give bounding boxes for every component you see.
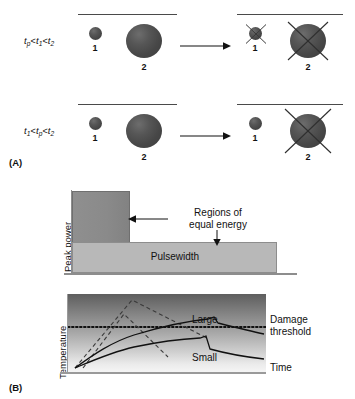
sphere-small-row2-after: [249, 117, 262, 130]
bar-peak-power-short-pulse: [72, 191, 130, 243]
condition-label-row-1: tp<t1<t2: [24, 35, 54, 46]
curve-large: [75, 317, 264, 368]
curve-label-large: Large: [192, 314, 218, 325]
sphere-number-row1-after-1: 1: [245, 43, 265, 53]
temp-chart-curves: [68, 294, 266, 372]
sphere-number-row1-before-1: 1: [85, 43, 105, 53]
row-2-left-rule: [78, 104, 177, 105]
sphere-number-row1-before-2: 2: [134, 62, 154, 72]
panel-a: tp<t1<t2 1 2 1 2 t1<tp<t2: [0, 0, 355, 175]
sphere-number-row2-before-1: 1: [85, 133, 105, 143]
sphere-large-row2-before: [126, 114, 162, 148]
equal-energy-annotation: Regions of equal energy: [158, 207, 278, 231]
bar-chart-baseline: [64, 273, 297, 275]
row-2-right-rule: [237, 104, 343, 105]
sphere-number-row2-after-1: 1: [245, 133, 265, 143]
sphere-large-row1-before: [126, 24, 162, 58]
down-arrow-icon-annotation: [211, 230, 223, 246]
temp-chart-x-axis: [60, 372, 266, 374]
bar-pulsewidth-label: Pulsewidth: [100, 252, 250, 262]
row-1-right-rule: [237, 14, 343, 15]
bar-chart: Peak power Pulsewidth Regions of equal e…: [0, 178, 355, 282]
curve-label-small: Small: [192, 352, 217, 363]
condition-label-row-2: t1<tp<t2: [24, 125, 54, 136]
temperature-chart: Temperature Large Small Damage threshold: [0, 282, 355, 399]
sphere-number-row2-after-2: 2: [298, 152, 318, 162]
equal-energy-annotation-line1: Regions of: [194, 207, 242, 218]
damage-cross-icon-row2-large: [283, 107, 333, 155]
damage-threshold-label: Damage threshold: [270, 314, 311, 337]
sphere-number-row1-after-2: 2: [298, 62, 318, 72]
equal-energy-annotation-line2: equal energy: [189, 219, 247, 230]
curve-small: [75, 336, 264, 368]
damage-cross-icon-row1-large: [285, 19, 331, 63]
temp-chart-xlabel: Time: [270, 362, 292, 374]
right-arrow-icon-row2: [180, 130, 232, 142]
panel-a-tag: (A): [9, 157, 22, 168]
sphere-small-row2-before: [89, 117, 102, 130]
figure-root: tp<t1<t2 1 2 1 2 t1<tp<t2: [0, 0, 355, 399]
right-arrow-icon-row1: [180, 40, 232, 52]
left-arrow-icon-annotation: [128, 213, 168, 225]
panel-b-tag: (B): [9, 382, 22, 393]
sphere-small-row1-before: [89, 27, 102, 40]
sphere-number-row2-before-2: 2: [134, 152, 154, 162]
damage-threshold-label-line1: Damage: [270, 314, 308, 325]
row-1-left-rule: [78, 14, 177, 15]
pulse-spike-tall-dashed: [75, 300, 207, 368]
damage-threshold-label-line2: threshold: [270, 326, 311, 337]
